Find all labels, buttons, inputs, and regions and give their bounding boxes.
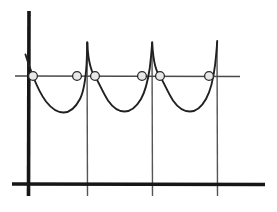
marker-point-3 — [91, 72, 100, 81]
marker-point-6 — [205, 72, 214, 81]
marker-point-5 — [156, 72, 165, 81]
asymptote-line-3 — [217, 42, 218, 196]
graph-svg — [0, 0, 277, 212]
figure-canvas — [0, 0, 277, 212]
asymptote-line-2 — [152, 42, 153, 196]
y-axis-line — [29, 11, 30, 196]
marker-point-1 — [29, 72, 38, 81]
marker-point-4 — [138, 72, 147, 81]
figure-background — [0, 0, 277, 212]
x-axis-baseline — [12, 184, 265, 185]
marker-point-2 — [73, 72, 82, 81]
